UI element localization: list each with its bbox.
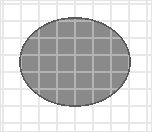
figure-canvas [0,0,152,132]
wafer-grid-figure [0,0,152,132]
